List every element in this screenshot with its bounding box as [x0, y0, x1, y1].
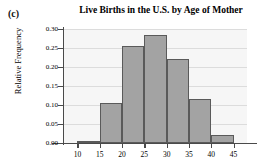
- y-axis-tick: [58, 67, 63, 68]
- y-axis-tick: [58, 105, 63, 106]
- y-axis-tick-label-wrap: 0.30: [26, 26, 58, 33]
- y-axis-title: Relative Frequency: [13, 25, 23, 97]
- bar: [144, 35, 166, 143]
- y-axis-tick-label-wrap: 0.15: [26, 83, 58, 90]
- figure-panel: (c) Live Births in the U.S. by Age of Mo…: [0, 0, 278, 166]
- y-axis-tick-label: 0.30: [32, 26, 58, 33]
- x-axis-tick-label: 25: [134, 150, 154, 159]
- bar: [211, 135, 233, 143]
- y-axis-tick-label-wrap: 0.20: [26, 64, 58, 71]
- x-axis-tick: [144, 144, 145, 148]
- bar: [122, 46, 144, 143]
- bar: [167, 59, 189, 143]
- plot-area: [64, 29, 247, 143]
- x-axis-tick-label: 40: [201, 150, 221, 159]
- y-axis-tick-label-wrap: 0.10: [26, 102, 58, 109]
- x-axis-tick: [167, 144, 168, 148]
- chart-title: Live Births in the U.S. by Age of Mother: [48, 5, 274, 15]
- gridline: [64, 29, 247, 30]
- x-axis-tick-label: 10: [67, 150, 87, 159]
- x-axis-tick-label: 30: [157, 150, 177, 159]
- y-axis-tick-label: 0.10: [32, 102, 58, 109]
- y-axis-tick-label: 0.05: [32, 121, 58, 128]
- y-axis-tick-label-wrap: 0.00: [26, 140, 58, 147]
- y-axis-tick: [58, 86, 63, 87]
- y-axis-tick-label: 0.00: [32, 140, 58, 147]
- y-axis-tick-label: 0.15: [32, 83, 58, 90]
- x-axis-tick: [211, 144, 212, 148]
- x-axis-line: [52, 143, 257, 144]
- y-axis-tick: [58, 143, 63, 144]
- x-axis-tick: [100, 144, 101, 148]
- y-axis-tick: [58, 48, 63, 49]
- y-axis-tick-label: 0.25: [32, 45, 58, 52]
- y-axis-tick-label: 0.20: [32, 64, 58, 71]
- bar: [100, 103, 122, 143]
- x-axis-tick-label: 35: [179, 150, 199, 159]
- y-axis-tick: [58, 29, 63, 30]
- y-axis-line: [63, 27, 64, 145]
- x-axis-tick-label: 45: [224, 150, 244, 159]
- x-axis-tick-label: 20: [112, 150, 132, 159]
- x-axis-tick: [122, 144, 123, 148]
- panel-label: (c): [8, 8, 19, 19]
- x-axis-tick: [77, 144, 78, 148]
- x-axis-tick: [189, 144, 190, 148]
- y-axis-tick-label-wrap: 0.25: [26, 45, 58, 52]
- y-axis-tick: [58, 124, 63, 125]
- x-axis-tick-label: 15: [90, 150, 110, 159]
- x-axis-tick: [234, 144, 235, 148]
- bar: [189, 99, 211, 143]
- y-axis-tick-label-wrap: 0.05: [26, 121, 58, 128]
